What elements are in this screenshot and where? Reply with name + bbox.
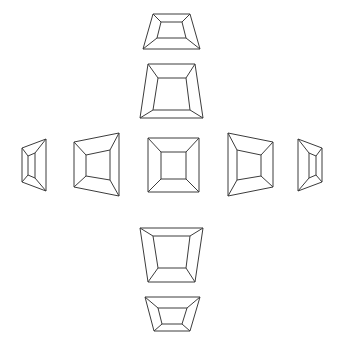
wall-edge-tr [186,64,195,78]
wall-edge-bl [22,175,28,182]
wall-edge-tr [261,142,273,155]
wall-edge-bl [154,324,162,331]
wall-edge-br [316,175,322,182]
open-box-view-top-far [143,14,200,49]
wall-edge-tl [74,142,86,155]
inner-outline [153,236,190,268]
open-box-view-left-far [22,139,46,191]
wall-edge-br [186,38,200,49]
open-box-view-top-near [140,64,203,118]
wall-edge-br [182,324,190,331]
wall-edge-bl [140,110,153,118]
wall-edge-br [110,180,119,196]
wall-edge-tr [186,138,199,152]
wall-edge-br [261,176,273,187]
wall-edge-br [190,110,203,118]
open-box-viewpoint-array [0,0,343,351]
open-box-view-center-frontal [148,138,199,192]
wall-edge-bl [228,180,237,196]
inner-outline [153,78,190,110]
wall-edge-tl [153,14,161,22]
inner-outline [237,150,261,180]
open-box-view-right-near [228,133,273,196]
wall-edge-tr [182,14,190,22]
outer-outline [74,133,119,196]
open-box-view-left-near [74,133,119,196]
wall-edge-tr [316,148,322,156]
outer-outline [228,133,273,196]
inner-outline [28,153,35,178]
wall-edge-bl [148,179,161,192]
wall-edge-bl [148,268,158,282]
outer-outline [298,139,322,191]
wall-edge-tl [140,228,153,236]
wall-edge-tl [228,133,237,150]
wall-edge-bl [74,176,86,187]
wall-edge-tr [190,228,203,236]
outer-outline [22,139,46,191]
wall-edge-br [186,179,199,192]
wall-edge-tl [148,138,161,152]
open-box-view-bottom-far [145,297,200,331]
wall-edge-bl [143,38,157,49]
inner-outline [161,152,186,179]
outer-outline [145,297,200,331]
inner-outline [157,22,186,38]
inner-outline [86,150,110,180]
inner-outline [158,308,187,324]
outer-outline [143,14,200,49]
wall-edge-tr [110,133,119,150]
diagram-canvas [0,0,343,351]
wall-edge-tl [22,148,28,156]
open-box-view-bottom-near [140,228,203,282]
inner-outline [309,153,316,178]
wall-edge-br [186,268,195,282]
open-box-view-right-far [298,139,322,191]
wall-edge-tl [148,64,158,78]
